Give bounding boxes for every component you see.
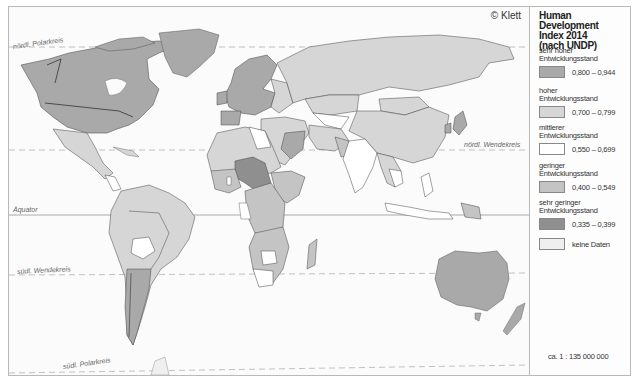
north-america [21,41,179,133]
greenland [159,29,219,77]
equator-label: Äquator [13,206,38,213]
legend-title: Human Development Index 2014 (nach UNDP) [539,11,629,51]
legend-item-low: geringer Entwicklungsstand 0,400 – 0,549 [539,162,629,193]
russia [277,35,514,103]
swatch-no-data [539,238,565,250]
india [343,139,377,193]
mexico [53,129,113,179]
swatch-very-low [539,218,565,230]
copyright-label: © Klett [491,10,521,21]
swatch-medium [539,143,565,155]
north-tropic-label: nördl. Wendekreis [464,141,520,148]
map-scale: ca. 1 : 135 000 000 [548,352,608,361]
south-america [109,185,195,345]
legend-item-no-data: keine Daten [539,235,629,250]
australia [435,251,509,311]
legend-item-very-high: sehr hoher Entwicklungsstand 0,800 – 0,9… [539,47,629,78]
legend-item-very-low: sehr geringer Entwicklungsstand 0,335 – … [539,199,629,230]
legend-item-medium: mittlerer Entwicklungsstand 0,550 – 0,69… [539,124,629,155]
legend-panel: Human Development Index 2014 (nach UNDP)… [529,6,631,376]
swatch-very-high [539,66,565,78]
swatch-high [539,106,565,118]
map-canvas [9,7,529,375]
world-map: © Klett nördl. Polarkreis nördl. Wendekr… [8,6,530,376]
swatch-low [539,181,565,193]
europe [225,55,277,115]
legend-item-high: hoher Entwicklungsstand 0,700 – 0,799 [539,87,629,118]
